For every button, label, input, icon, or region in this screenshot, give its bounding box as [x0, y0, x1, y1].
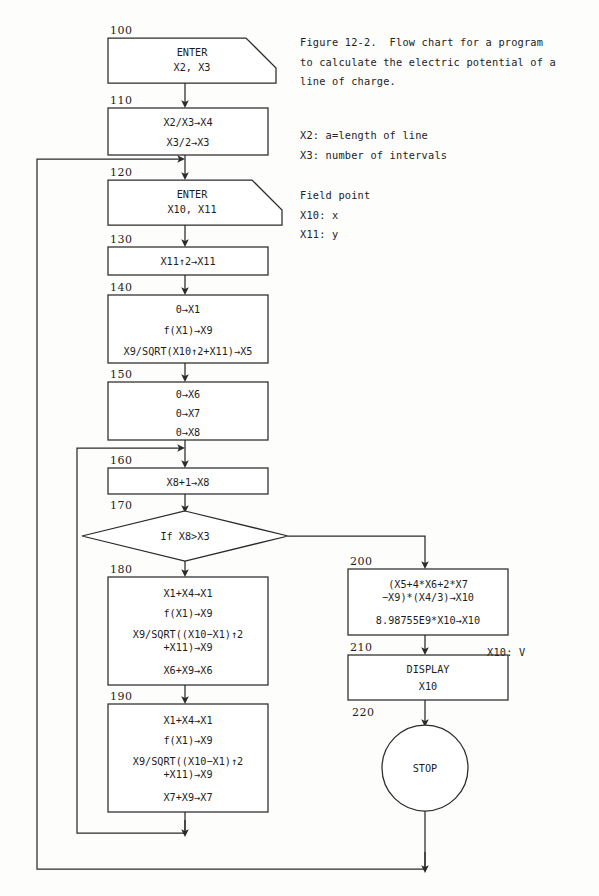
- node-130-line-number: 130: [110, 233, 133, 246]
- node-190-line-number: 190: [110, 690, 133, 703]
- node-100-text-line-2: X2, X3: [174, 62, 211, 73]
- node-180-line-number: 180: [110, 563, 133, 576]
- node-180-text-line-1: X1+X4→X1: [163, 588, 212, 599]
- node-190-text-line-3: X9/SQRT((X10−X1)↑2: [133, 756, 243, 767]
- node-100-text-line-1: ENTER: [177, 47, 209, 58]
- node-120-text-line-2: X10, X11: [167, 204, 216, 215]
- node-110-line-number: 110: [110, 94, 133, 107]
- node-100-line-number: 100: [110, 24, 133, 37]
- node-200-text-line-1: (X5+4*X6+2*X7: [388, 579, 468, 590]
- output-variable-legend: X10: V: [487, 643, 525, 663]
- node-140-text-line-2: f(X1)→X9: [163, 325, 212, 336]
- node-200-text-line-2: −X9)*(X4/3)→X10: [382, 592, 474, 603]
- node-100-shape: [108, 38, 276, 83]
- node-160: 160 X8+1→X8: [108, 454, 268, 494]
- node-190-text-line-1: X1+X4→X1: [163, 715, 212, 726]
- node-120: 120 ENTER X10, X11: [108, 166, 282, 225]
- node-190: 190 X1+X4→X1 f(X1)→X9 X9/SQRT((X10−X1)↑2…: [108, 690, 268, 812]
- node-200-line-number: 200: [350, 555, 373, 568]
- node-190-text-line-2: f(X1)→X9: [163, 735, 212, 746]
- node-140-line-number: 140: [110, 281, 133, 294]
- node-210-line-number: 210: [350, 641, 373, 654]
- node-210: 210 DISPLAY X10: [348, 641, 508, 700]
- node-180-text-line-2: f(X1)→X9: [163, 608, 212, 619]
- field-point-legend: Field point X10: x X11: y: [300, 186, 590, 245]
- node-180-text-line-5: X6+X9→X6: [163, 665, 212, 676]
- node-190-text-line-4: +X11)→X9: [163, 769, 212, 780]
- node-110-text-line-1: X2/X3→X4: [163, 117, 212, 128]
- node-210-text-line-2: X10: [419, 681, 437, 692]
- node-140-text-line-3: X9/SQRT(X10↑2+X11)→X5: [124, 346, 253, 357]
- node-210-shape: [348, 655, 508, 700]
- node-160-text-line-1: X8+1→X8: [167, 477, 210, 488]
- node-180-text-line-4: +X11)→X9: [163, 642, 212, 653]
- node-210-text-line-1: DISPLAY: [407, 664, 450, 675]
- node-220-text-line-1: STOP: [413, 763, 438, 774]
- node-150-text-line-2: 0→X7: [176, 408, 201, 419]
- node-150-text-line-3: 0→X8: [176, 427, 201, 438]
- node-110: 110 X2/X3→X4 X3/2→X3: [108, 94, 268, 155]
- node-100: 100 ENTER X2, X3: [108, 24, 276, 83]
- node-130-text-line-1: X11↑2→X11: [160, 256, 215, 267]
- node-170-text-line-1: If X8>X3: [160, 531, 209, 542]
- node-110-text-line-2: X3/2→X3: [167, 137, 210, 148]
- node-140: 140 0→X1 f(X1)→X9 X9/SQRT(X10↑2+X11)→X5: [108, 281, 268, 363]
- node-130: 130 X11↑2→X11: [108, 233, 268, 275]
- flowchart-page: 100 ENTER X2, X3 110 X2/X3→X4 X3/2→X3 12…: [0, 0, 599, 896]
- node-200: 200 (X5+4*X6+2*X7 −X9)*(X4/3)→X10 8.9875…: [348, 555, 508, 635]
- node-180-text-line-3: X9/SQRT((X10−X1)↑2: [133, 629, 243, 640]
- node-220: 220 STOP: [352, 706, 468, 811]
- node-150: 150 0→X6 0→X7 0→X8: [108, 368, 268, 440]
- input-variable-legend: X2: a=length of line X3: number of inter…: [300, 126, 590, 165]
- node-120-shape: [108, 180, 282, 225]
- node-140-text-line-1: 0→X1: [176, 304, 201, 315]
- node-160-line-number: 160: [110, 454, 133, 467]
- node-170-line-number: 170: [110, 499, 133, 512]
- node-150-line-number: 150: [110, 368, 133, 381]
- node-180: 180 X1+X4→X1 f(X1)→X9 X9/SQRT((X10−X1)↑2…: [108, 563, 268, 685]
- node-120-line-number: 120: [110, 166, 133, 179]
- node-200-text-line-3: 8.98755E9*X10→X10: [376, 615, 480, 626]
- node-220-line-number: 220: [352, 706, 375, 719]
- node-150-text-line-1: 0→X6: [176, 389, 201, 400]
- node-120-text-line-1: ENTER: [177, 189, 209, 200]
- figure-caption: Figure 12-2. Flow chart for a program to…: [300, 33, 590, 92]
- node-190-text-line-5: X7+X9→X7: [163, 792, 212, 803]
